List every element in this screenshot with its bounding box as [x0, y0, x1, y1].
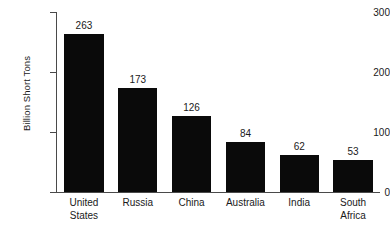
bar-slot-south-africa: 53 — [333, 12, 372, 192]
bar-value-australia: 84 — [226, 128, 265, 139]
bar-value-united-states: 263 — [64, 20, 103, 31]
category-label-china: China — [165, 196, 219, 209]
y-tick-200 — [50, 72, 57, 73]
bar-australia — [226, 142, 265, 192]
y-tick-300 — [50, 12, 57, 13]
bar-slot-russia: 173 — [118, 12, 157, 192]
category-label-australia: Australia — [219, 196, 273, 209]
bar-slot-united-states: 263 — [64, 12, 103, 192]
bar-slot-australia: 84 — [226, 12, 265, 192]
bar-china — [172, 116, 211, 192]
category-label-south-africa: SouthAfrica — [326, 196, 380, 222]
category-label-india: India — [272, 196, 326, 209]
bar-value-china: 126 — [172, 102, 211, 113]
y-tick-100 — [50, 132, 57, 133]
category-label-russia: Russia — [111, 196, 165, 209]
y-tick-0 — [50, 192, 57, 193]
bar-india — [280, 155, 319, 192]
bar-slot-china: 126 — [172, 12, 211, 192]
y-axis-title: Billion Short Tons — [21, 14, 32, 174]
plot-area: 263173126846253 — [57, 12, 380, 192]
bar-slot-india: 62 — [280, 12, 319, 192]
bar-russia — [118, 88, 157, 192]
bar-chart: Billion Short Tons 300 200 100 0 2631731… — [0, 0, 390, 235]
bar-united-states — [64, 34, 103, 192]
x-axis-line — [56, 192, 380, 193]
bar-south-africa — [333, 160, 372, 192]
category-axis-labels: UnitedStatesRussiaChinaAustraliaIndiaSou… — [57, 196, 380, 234]
bar-value-india: 62 — [280, 141, 319, 152]
category-label-united-states: UnitedStates — [57, 196, 111, 222]
bar-value-russia: 173 — [118, 74, 157, 85]
bar-value-south-africa: 53 — [333, 146, 372, 157]
